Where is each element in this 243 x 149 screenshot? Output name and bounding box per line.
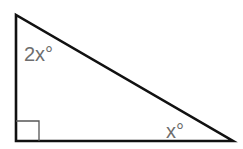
angle-label-bottom-right: x° [166,120,184,142]
triangle [16,15,233,141]
angle-label-top: 2x° [24,43,53,65]
triangle-diagram: 2x° x° [0,0,243,149]
right-angle-marker [16,121,39,141]
